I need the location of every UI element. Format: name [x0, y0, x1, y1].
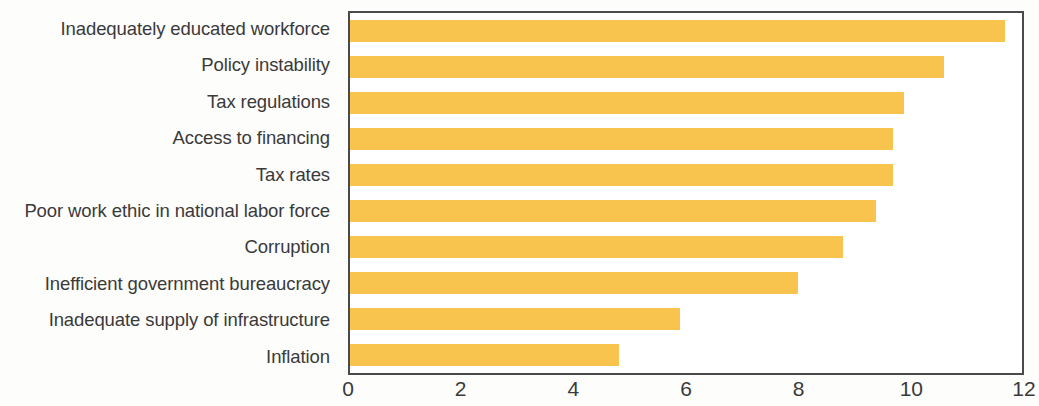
category-label: Tax rates: [256, 166, 330, 185]
bar-chart: Inadequately educated workforcePolicy in…: [0, 0, 1039, 406]
category-label: Poor work ethic in national labor force: [24, 202, 330, 221]
category-label-row: Policy instability: [0, 47, 340, 83]
category-label-row: Tax regulations: [0, 84, 340, 120]
x-tick-label: 10: [900, 378, 923, 399]
bar-row: [350, 337, 1022, 373]
bar-row: [350, 265, 1022, 301]
bars-layer: [350, 13, 1022, 373]
bar: [350, 20, 1005, 42]
category-label: Inefficient government bureaucracy: [45, 275, 330, 294]
category-label-row: Poor work ethic in national labor force: [0, 193, 340, 229]
bar: [350, 164, 893, 186]
category-label: Inflation: [266, 348, 330, 367]
x-tick-label: 0: [342, 378, 354, 399]
x-tick-label: 12: [1012, 378, 1035, 399]
x-axis: 024681012: [348, 378, 1024, 406]
category-label-row: Inadequate supply of infrastructure: [0, 302, 340, 338]
category-axis: Inadequately educated workforcePolicy in…: [0, 11, 340, 375]
category-label: Access to financing: [173, 129, 331, 148]
bar: [350, 200, 876, 222]
category-label-row: Corruption: [0, 229, 340, 265]
category-label-row: Access to financing: [0, 120, 340, 156]
category-label: Tax regulations: [207, 93, 330, 112]
category-label-row: Tax rates: [0, 157, 340, 193]
bar: [350, 236, 843, 258]
bar: [350, 128, 893, 150]
bar-row: [350, 13, 1022, 49]
bar-row: [350, 121, 1022, 157]
bar-row: [350, 193, 1022, 229]
bar-row: [350, 301, 1022, 337]
category-label: Inadequately educated workforce: [61, 20, 330, 39]
x-tick-label: 4: [567, 378, 579, 399]
bar-row: [350, 229, 1022, 265]
category-label-row: Inflation: [0, 339, 340, 375]
category-label-row: Inefficient government bureaucracy: [0, 266, 340, 302]
bar-row: [350, 49, 1022, 85]
bar: [350, 344, 619, 366]
bar: [350, 56, 944, 78]
category-label: Inadequate supply of infrastructure: [49, 311, 330, 330]
x-tick-label: 6: [680, 378, 692, 399]
bar-row: [350, 85, 1022, 121]
category-label-row: Inadequately educated workforce: [0, 11, 340, 47]
bar: [350, 272, 798, 294]
x-tick-label: 2: [455, 378, 467, 399]
plot-area: [348, 11, 1024, 375]
bar-row: [350, 157, 1022, 193]
category-label: Policy instability: [201, 56, 330, 75]
bar: [350, 308, 680, 330]
x-tick-label: 8: [793, 378, 805, 399]
bar: [350, 92, 904, 114]
category-label: Corruption: [245, 238, 330, 257]
